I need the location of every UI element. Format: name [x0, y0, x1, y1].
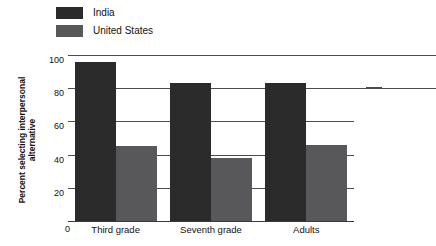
y-tick-label-20: 20: [40, 189, 64, 198]
bar-group: [170, 55, 252, 221]
legend-item-united-states: United States: [56, 23, 153, 38]
y-axis-title: Percent selecting interpersonal alternat…: [14, 60, 40, 220]
bar-group: [75, 55, 157, 221]
bar-group: [265, 55, 347, 221]
legend-item-india: India: [56, 5, 153, 20]
legend-swatch-united-states: [56, 25, 83, 37]
x-tick-label: Third grade: [68, 224, 163, 235]
y-tick-label-60: 60: [40, 122, 64, 131]
bar-india: [170, 83, 211, 221]
y-tick-label-80: 80: [40, 89, 64, 98]
legend-label-india: India: [93, 7, 115, 19]
x-tick-label: Adults: [259, 224, 354, 235]
y-axis-title-line1: Percent selecting interpersonal: [17, 60, 27, 220]
bar-united-states: [306, 145, 347, 221]
legend-label-united-states: United States: [93, 25, 153, 37]
bar-united-states: [116, 146, 157, 221]
axis-extension-mark: [366, 87, 382, 88]
bar-series-container: [68, 55, 354, 221]
x-axis-tick-labels: Third gradeSeventh gradeAdults: [68, 224, 354, 240]
x-tick-label: Seventh grade: [163, 224, 258, 235]
y-tick-label-100: 100: [40, 56, 64, 65]
legend-swatch-india: [56, 7, 83, 19]
y-tick-label-40: 40: [40, 156, 64, 165]
plot-area: [68, 55, 354, 221]
bar-united-states: [211, 158, 252, 221]
x-axis-line: [68, 221, 354, 222]
y-axis-title-line2: alternative: [27, 60, 37, 220]
bar-india: [75, 62, 116, 221]
bar-india: [265, 83, 306, 221]
chart-legend: India United States: [56, 5, 153, 41]
